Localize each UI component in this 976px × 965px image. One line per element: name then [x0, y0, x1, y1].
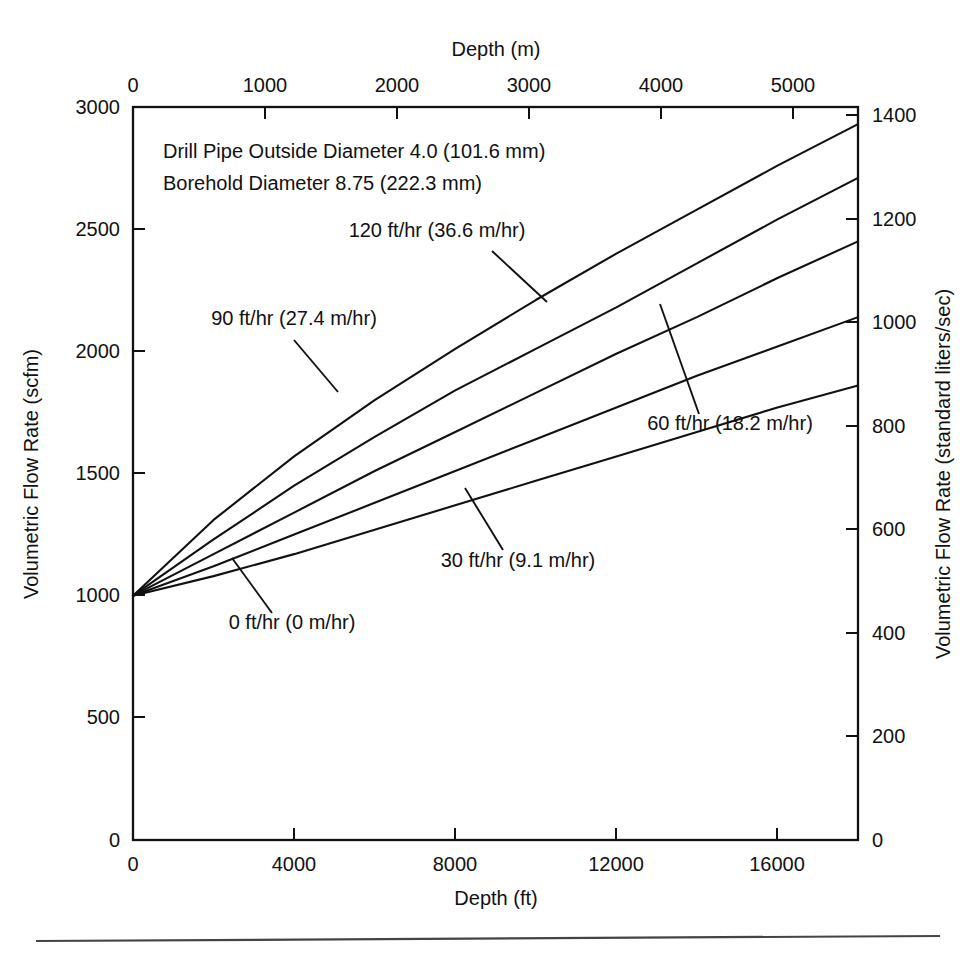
right-axis-ticklabels: 1400 1200 1000 800 600 400 200 0	[872, 104, 917, 851]
bottom-tick-16000: 16000	[749, 853, 805, 875]
curve-120-ft-hr	[133, 124, 858, 596]
left-tick-2500: 2500	[76, 218, 121, 240]
top-axis-ticklabels: 0 1000 2000 3000 4000 5000	[127, 74, 815, 96]
left-tick-500: 500	[87, 706, 120, 728]
left-axis-title: Volumetric Flow Rate (scfm)	[20, 349, 42, 599]
top-tick-2000: 2000	[375, 74, 420, 96]
note-drill-pipe-diameter: Drill Pipe Outside Diameter 4.0 (101.6 m…	[163, 140, 545, 162]
right-tick-marks	[846, 115, 858, 736]
leader-line-60	[660, 304, 699, 414]
curve-label-30: 30 ft/hr (9.1 m/hr)	[441, 549, 596, 571]
right-tick-600: 600	[872, 518, 905, 540]
right-axis-title: Volumetric Flow Rate (standard liters/se…	[932, 289, 954, 659]
curve-annotations: 120 ft/hr (36.6 m/hr) 90 ft/hr (27.4 m/h…	[211, 219, 813, 633]
right-tick-400: 400	[872, 622, 905, 644]
page-divider-rule	[36, 936, 940, 941]
top-axis-title: Depth (m)	[452, 38, 541, 60]
curve-label-0: 0 ft/hr (0 m/hr)	[229, 611, 356, 633]
bottom-axis-title: Depth (ft)	[454, 887, 537, 909]
curve-label-60: 60 ft/hr (18.2 m/hr)	[647, 412, 813, 434]
left-tick-1500: 1500	[76, 462, 121, 484]
bottom-tick-4000: 4000	[272, 853, 317, 875]
right-tick-1200: 1200	[872, 208, 917, 230]
bottom-tick-marks	[294, 828, 777, 840]
chart-svg: Depth (m) 0 1000 2000 3000 4000 5000	[0, 0, 976, 965]
top-tick-5000: 5000	[771, 74, 816, 96]
data-curves	[133, 124, 858, 596]
leader-line-120	[492, 251, 547, 302]
curve-label-90: 90 ft/hr (27.4 m/hr)	[211, 307, 377, 329]
bottom-tick-0: 0	[127, 853, 138, 875]
right-tick-1000: 1000	[872, 311, 917, 333]
left-tick-3000: 3000	[76, 96, 121, 118]
curve-label-120: 120 ft/hr (36.6 m/hr)	[349, 219, 526, 241]
left-tick-2000: 2000	[76, 340, 121, 362]
top-tick-4000: 4000	[639, 74, 684, 96]
right-tick-1400: 1400	[872, 104, 917, 126]
top-tick-3000: 3000	[507, 74, 552, 96]
top-tick-0: 0	[127, 74, 138, 96]
left-tick-marks	[133, 229, 145, 717]
plot-frame	[133, 107, 858, 840]
left-tick-1000: 1000	[76, 584, 121, 606]
leader-line-90	[294, 340, 338, 392]
right-tick-200: 200	[872, 725, 905, 747]
bottom-axis-ticklabels: 0 4000 8000 12000 16000	[127, 853, 804, 875]
bottom-tick-12000: 12000	[588, 853, 644, 875]
left-tick-0: 0	[109, 829, 120, 851]
left-axis-ticklabels: 3000 2500 2000 1500 1000 500 0	[76, 96, 121, 851]
chart-figure: Depth (m) 0 1000 2000 3000 4000 5000	[0, 0, 976, 965]
bottom-tick-8000: 8000	[433, 853, 478, 875]
plot-notes: Drill Pipe Outside Diameter 4.0 (101.6 m…	[163, 140, 545, 194]
right-tick-800: 800	[872, 415, 905, 437]
top-tick-1000: 1000	[243, 74, 288, 96]
top-tick-marks	[265, 107, 793, 119]
right-tick-0: 0	[872, 829, 883, 851]
note-borehole-diameter: Borehold Diameter 8.75 (222.3 mm)	[163, 172, 482, 194]
